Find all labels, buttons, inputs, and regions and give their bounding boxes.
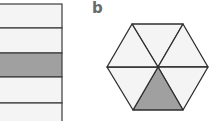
hexagon-triangles bbox=[107, 24, 208, 110]
band-1 bbox=[0, 4, 62, 28]
band-2 bbox=[0, 28, 62, 53]
band-5 bbox=[0, 103, 62, 121]
band-3-shaded bbox=[0, 53, 62, 77]
rectangle-fraction-figure bbox=[0, 0, 70, 121]
band-4 bbox=[0, 77, 62, 103]
hexagon-fraction-figure bbox=[100, 0, 209, 121]
rectangle-bands bbox=[0, 4, 62, 121]
